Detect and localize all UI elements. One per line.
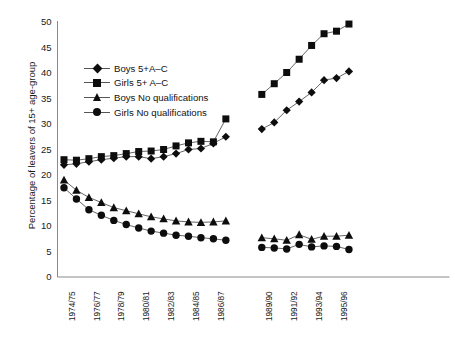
marker-triangle [60,176,68,184]
marker-circle [283,245,290,252]
marker-circle [295,241,302,248]
marker-triangle [345,231,353,239]
marker-circle [308,243,315,250]
marker-circle [271,244,278,251]
marker-square [308,42,315,49]
marker-square [173,142,180,149]
legend-triangle-icon [84,90,110,104]
marker-square [110,152,117,159]
marker-circle [160,229,167,236]
legend-item-3: Girls No qualifications [84,105,208,120]
marker-diamond [332,74,340,82]
marker-square [61,156,68,163]
marker-triangle [222,217,230,225]
legend-square-icon [84,76,110,90]
legend-label: Boys 5+A–C [110,63,168,74]
marker-diamond [345,67,353,75]
series-line [64,180,226,222]
marker-circle [98,212,105,219]
marker-square [98,153,105,160]
marker-square [321,30,328,37]
legend-item-0: Boys 5+A–C [84,61,208,76]
marker-diamond [295,97,303,105]
marker-diamond [160,153,168,161]
legend-label: Girls 5+ A–C [110,77,168,88]
series-3 [60,184,352,253]
marker-circle [210,235,217,242]
marker-circle [110,217,117,224]
plot-area [0,0,455,348]
marker-square [85,155,92,162]
marker-circle [320,242,327,249]
marker-square [73,157,80,164]
marker-circle [147,227,154,234]
marker-square [258,91,265,98]
marker-circle [73,195,80,202]
marker-circle [60,184,67,191]
legend-item-1: Girls 5+ A–C [84,76,208,91]
marker-circle [345,246,352,253]
marker-diamond [197,144,205,152]
marker-square [123,150,130,157]
legend-label: Boys No qualifications [110,92,208,103]
marker-diamond [147,155,155,163]
marker-diamond [184,145,192,153]
marker-square [148,148,155,155]
marker-diamond [222,133,230,141]
marker-square [333,28,340,35]
marker-triangle [72,186,80,194]
marker-circle [222,237,229,244]
marker-square [283,69,290,76]
marker-circle [135,224,142,231]
marker-square [271,80,278,87]
marker-circle [123,221,130,228]
marker-circle [185,233,192,240]
marker-triangle [85,193,93,201]
legend-diamond-icon [84,61,110,75]
marker-diamond [172,149,180,157]
marker-triangle [97,198,105,206]
marker-circle [258,244,265,251]
series-2 [60,176,353,244]
marker-diamond [258,125,266,133]
legend-item-2: Boys No qualifications [84,90,208,105]
marker-square [222,115,229,122]
marker-square [296,56,303,63]
legend-label: Girls No qualifications [110,107,207,118]
marker-square [210,138,217,145]
marker-triangle [110,203,118,211]
marker-square [185,139,192,146]
marker-circle [172,231,179,238]
marker-circle [197,234,204,241]
marker-circle [85,206,92,213]
chart-legend: Boys 5+A–CGirls 5+ A–CBoys No qualificat… [84,61,208,119]
legend-circle-icon [84,105,110,119]
marker-square [197,138,204,145]
marker-square [135,148,142,155]
marker-square [345,21,352,28]
marker-square [160,146,167,153]
marker-triangle [295,230,303,238]
marker-circle [333,243,340,250]
chart-container: Percentage of leavers of 15+ age-group 0… [0,0,455,348]
marker-triangle [258,233,266,241]
